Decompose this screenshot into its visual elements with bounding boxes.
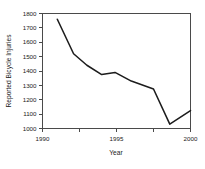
chart-canvas: 100011001200130014001500160017001800 199… xyxy=(0,0,205,169)
y-axis-title: Reported Bicycle Injuries xyxy=(5,34,13,108)
y-tick-label: 1700 xyxy=(23,24,37,31)
y-tick-label: 1100 xyxy=(23,110,37,117)
y-tick-label: 1600 xyxy=(23,38,37,45)
y-tick-label: 1300 xyxy=(23,82,37,89)
x-tick-label: 2000 xyxy=(184,135,198,142)
y-tick-label: 1500 xyxy=(23,53,37,60)
y-tick-label: 1400 xyxy=(23,67,37,74)
y-tick-label: 1200 xyxy=(23,96,37,103)
x-axis-title: Year xyxy=(109,149,123,156)
y-tick-label: 1800 xyxy=(23,10,37,17)
y-tick-label: 1000 xyxy=(23,125,37,132)
bicycle-injuries-line-chart: 100011001200130014001500160017001800 199… xyxy=(0,0,205,169)
x-tick-label: 1995 xyxy=(110,135,124,142)
x-tick-label: 1990 xyxy=(36,135,50,142)
